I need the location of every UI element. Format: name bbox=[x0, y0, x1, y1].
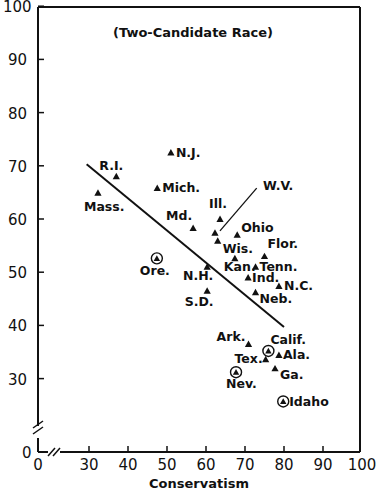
y-tick-label: 90 bbox=[8, 51, 27, 69]
y-tick-label: 30 bbox=[8, 371, 27, 389]
data-point: N.J. bbox=[167, 145, 200, 160]
point-label: N.H. bbox=[183, 268, 213, 283]
point-label: Mass. bbox=[84, 199, 125, 214]
point-label: Wis. bbox=[223, 241, 253, 256]
triangle-marker-icon bbox=[245, 274, 252, 280]
y-tick-label: 40 bbox=[8, 317, 27, 335]
point-label: Neb. bbox=[260, 291, 293, 306]
point-label: Flor. bbox=[268, 236, 299, 251]
point-label: Mich. bbox=[162, 180, 200, 195]
data-point: Ore. bbox=[140, 253, 170, 279]
x-tick-label: 90 bbox=[313, 456, 332, 474]
triangle-marker-icon bbox=[211, 229, 218, 235]
triangle-marker-icon bbox=[252, 289, 259, 295]
data-point: Ala. bbox=[275, 347, 310, 362]
data-point: Wis. bbox=[214, 237, 253, 256]
point-label: Ore. bbox=[140, 263, 170, 278]
y-tick-label: 100 bbox=[3, 0, 32, 16]
data-point: R.I. bbox=[99, 158, 123, 179]
point-label: Ill. bbox=[209, 196, 227, 211]
triangle-marker-icon bbox=[271, 365, 278, 371]
x-axis-title: Conservatism bbox=[149, 476, 249, 491]
axes bbox=[33, 7, 360, 456]
data-point: Kan. bbox=[224, 255, 256, 275]
scatter-chart: 030405060708090100030405060708090100 (Tw… bbox=[0, 0, 379, 493]
y-tick-label: 50 bbox=[8, 264, 27, 282]
triangle-marker-icon bbox=[245, 340, 252, 346]
triangle-marker-icon bbox=[214, 237, 221, 243]
triangle-marker-icon bbox=[94, 189, 101, 195]
data-point: S.D. bbox=[185, 287, 214, 309]
data-point: Ark. bbox=[217, 329, 253, 347]
triangle-marker-icon bbox=[154, 185, 161, 191]
point-label: Tex. bbox=[235, 351, 263, 366]
y-tick-label: 80 bbox=[8, 105, 27, 123]
triangle-marker-icon bbox=[204, 287, 211, 293]
point-label: Ga. bbox=[280, 367, 303, 382]
point-label: Kan. bbox=[224, 259, 256, 274]
x-tick-label: 50 bbox=[157, 456, 176, 474]
data-points: Mass.R.I.N.J.Mich.Md.Ill.W.V.Wis.OhioFlo… bbox=[84, 145, 329, 410]
y-tick-label: 60 bbox=[8, 211, 27, 229]
data-point: Ill. bbox=[209, 196, 227, 222]
point-label: Nev. bbox=[226, 376, 257, 391]
y-tick-label: 0 bbox=[22, 444, 32, 462]
data-point: Ohio bbox=[234, 220, 274, 238]
point-label: Ind. bbox=[252, 270, 279, 285]
data-point: Neb. bbox=[252, 289, 292, 307]
point-label: Idaho bbox=[289, 394, 329, 409]
data-point: Nev. bbox=[226, 367, 257, 392]
y-tick-label: 70 bbox=[8, 158, 27, 176]
data-point: Md. bbox=[166, 208, 197, 231]
x-tick-label: 40 bbox=[118, 456, 137, 474]
point-label: S.D. bbox=[185, 294, 214, 309]
x-tick-label: 30 bbox=[79, 456, 98, 474]
x-tick-label: 70 bbox=[235, 456, 254, 474]
triangle-marker-icon bbox=[167, 149, 174, 155]
triangle-marker-icon bbox=[190, 224, 197, 230]
triangle-marker-icon bbox=[216, 215, 223, 221]
point-label: Calif. bbox=[270, 332, 306, 347]
x-tick-label: 100 bbox=[348, 456, 377, 474]
point-label: R.I. bbox=[99, 158, 123, 173]
triangle-marker-icon bbox=[113, 173, 120, 179]
triangle-marker-icon bbox=[275, 352, 282, 358]
x-tick-label: 80 bbox=[274, 456, 293, 474]
triangle-marker-icon bbox=[234, 231, 241, 237]
point-label: Ark. bbox=[217, 329, 246, 344]
data-point: Mich. bbox=[154, 180, 200, 195]
point-label: Ohio bbox=[241, 220, 274, 235]
chart-title: (Two-Candidate Race) bbox=[113, 25, 273, 40]
x-tick-label: 0 bbox=[33, 456, 43, 474]
data-point: Mass. bbox=[84, 189, 125, 214]
x-tick-label: 60 bbox=[196, 456, 215, 474]
point-label: Ala. bbox=[283, 347, 310, 362]
data-point: Flor. bbox=[261, 236, 298, 259]
point-label: W.V. bbox=[263, 178, 293, 193]
data-point: Idaho bbox=[278, 394, 329, 409]
point-label: N.J. bbox=[176, 145, 201, 160]
point-label: Md. bbox=[166, 208, 192, 223]
data-point: Ga. bbox=[271, 365, 303, 383]
